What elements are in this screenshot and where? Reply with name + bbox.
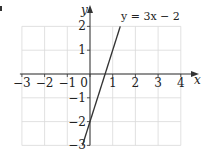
tick-labels: −3−2−101234−3−2−112 bbox=[13, 19, 185, 152]
y-tick-label: −2 bbox=[68, 115, 86, 129]
x-tick-label: 3 bbox=[154, 76, 162, 90]
x-tick-label: −1 bbox=[58, 76, 76, 90]
y-tick-label: −1 bbox=[68, 91, 86, 105]
y-axis-arrow-icon bbox=[87, 5, 93, 13]
x-tick-label: −2 bbox=[36, 76, 54, 90]
y-axis-label: y bbox=[80, 3, 88, 17]
y-tick-label: 2 bbox=[78, 19, 86, 33]
x-tick-label: 2 bbox=[132, 76, 140, 90]
x-axis-label: x bbox=[194, 73, 201, 87]
x-tick-label: 0 bbox=[80, 76, 88, 90]
x-tick-label: −3 bbox=[13, 76, 31, 90]
line-chart: −3−2−101234−3−2−112 x y y = 3x − 2 bbox=[0, 0, 206, 154]
x-tick-label: 4 bbox=[177, 76, 185, 90]
y-tick-label: 1 bbox=[78, 43, 86, 57]
equation-label: y = 3x − 2 bbox=[120, 10, 180, 23]
x-tick-label: 1 bbox=[109, 76, 117, 90]
